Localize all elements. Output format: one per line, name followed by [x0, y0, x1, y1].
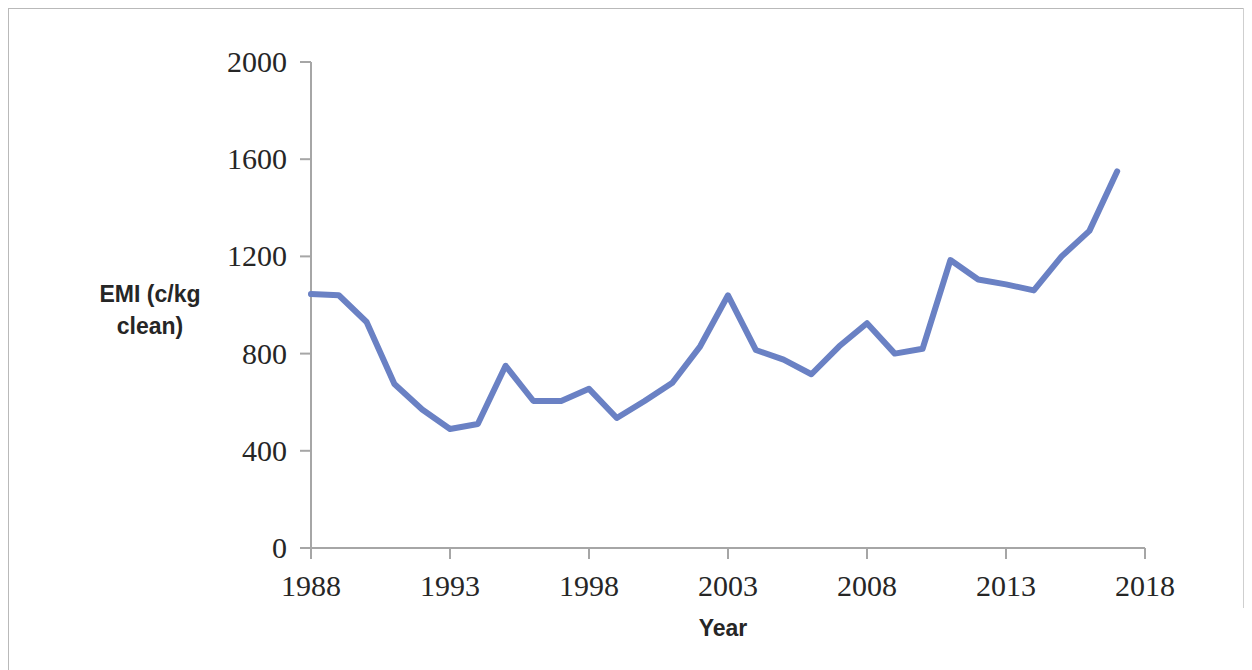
- y-axis-tick-label: 1600: [227, 142, 287, 175]
- y-axis-tick-label: 2000: [227, 45, 287, 78]
- y-axis-tick-labels: 0400800120016002000: [227, 45, 287, 564]
- x-axis-tick-label: 1998: [559, 569, 619, 602]
- y-axis-title-line1: EMI (c/kg: [100, 281, 201, 307]
- x-axis-tick-label: 2003: [698, 569, 758, 602]
- emi-line-chart: 0400800120016002000 19881993199820032008…: [0, 0, 1252, 670]
- x-axis-tick-label: 2018: [1115, 569, 1175, 602]
- y-axis-ticks: [300, 62, 311, 548]
- y-axis-tick-label: 400: [242, 434, 287, 467]
- x-axis-tick-label: 2013: [976, 569, 1036, 602]
- data-series-line: [311, 171, 1117, 429]
- y-axis-title-line2: clean): [117, 313, 183, 339]
- x-axis-ticks: [311, 548, 1145, 559]
- y-axis-tick-label: 1200: [227, 239, 287, 272]
- y-axis-tick-label: 0: [272, 531, 287, 564]
- x-axis-tick-label: 2008: [837, 569, 897, 602]
- x-axis-tick-label: 1993: [420, 569, 480, 602]
- x-axis-title: Year: [699, 615, 748, 641]
- chart-page: 0400800120016002000 19881993199820032008…: [0, 0, 1252, 670]
- y-axis-tick-label: 800: [242, 337, 287, 370]
- x-axis-tick-labels: 1988199319982003200820132018: [281, 569, 1175, 602]
- x-axis-tick-label: 1988: [281, 569, 341, 602]
